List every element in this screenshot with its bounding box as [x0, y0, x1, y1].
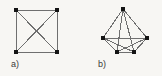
graph-edge: [117, 38, 147, 52]
graph-vertex: [101, 36, 105, 40]
graph-vertex: [14, 50, 18, 54]
graph-vertex: [14, 8, 18, 12]
graph-edge: [103, 38, 117, 52]
graph-vertex: [115, 50, 119, 54]
graph-edge: [134, 38, 147, 52]
graph-vertex: [145, 36, 149, 40]
graph-vertex: [55, 50, 59, 54]
graph-panel-a: a): [0, 0, 81, 76]
graph-panel-b: b): [81, 0, 162, 76]
caption-b: b): [98, 60, 106, 69]
graph-b-drawing: [81, 0, 162, 76]
graph-vertex: [132, 50, 136, 54]
caption-a: a): [11, 60, 19, 69]
graph-vertex: [55, 8, 59, 12]
graph-vertex: [121, 7, 125, 11]
figure-container: a) b): [0, 0, 162, 76]
